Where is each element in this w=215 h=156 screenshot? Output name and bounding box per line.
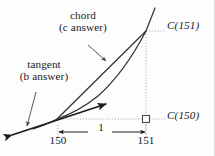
square-marker	[143, 116, 150, 123]
chord-annotation: chord (c answer)	[47, 9, 119, 33]
point-label-c150: C(150)	[167, 109, 199, 121]
chord-annotation-line2: (c answer)	[47, 21, 119, 33]
chord-pointer-arrow	[88, 45, 106, 61]
figure-canvas: chord (c answer) tangent (b answer) C(15…	[0, 0, 215, 156]
x-tick-label-151: 151	[130, 134, 162, 146]
tangent-annotation-line2: (b answer)	[8, 70, 80, 82]
interval-width-label: 1	[89, 121, 113, 133]
tangent-annotation: tangent (b answer)	[8, 58, 80, 82]
x-tick-label-150: 150	[42, 134, 74, 146]
chord-annotation-line1: chord	[47, 9, 119, 21]
tangent-pointer-arrow	[27, 92, 36, 126]
point-label-c151: C(151)	[167, 19, 199, 31]
tangent-annotation-line1: tangent	[8, 58, 80, 70]
